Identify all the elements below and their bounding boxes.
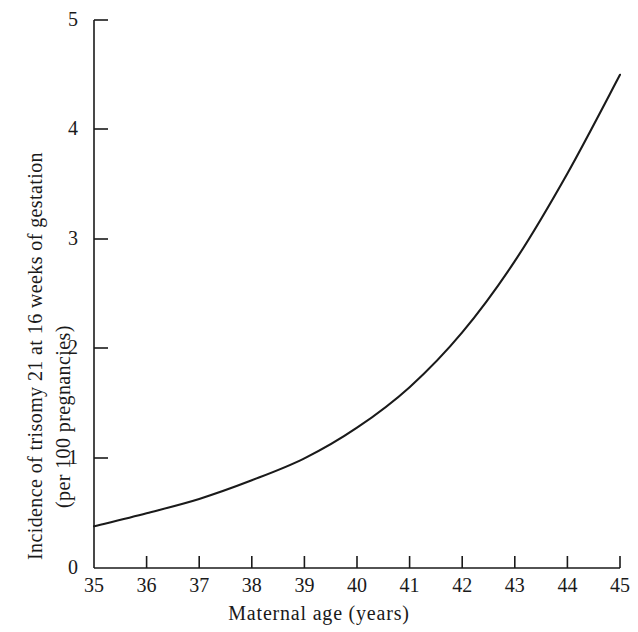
x-tick-label-42: 42 — [442, 574, 482, 597]
x-tick-label-44: 44 — [547, 574, 587, 597]
x-tick-label-36: 36 — [127, 574, 167, 597]
chart-figure: Incidence of trisomy 21 at 16 weeks of g… — [0, 0, 638, 632]
plot-area — [0, 0, 638, 632]
y-tick-label-1: 1 — [52, 446, 78, 469]
x-tick-label-41: 41 — [390, 574, 430, 597]
y-tick-label-3: 3 — [52, 227, 78, 250]
x-tick-label-39: 39 — [284, 574, 324, 597]
x-tick-label-35: 35 — [74, 574, 114, 597]
x-axis-label: Maternal age (years) — [0, 602, 638, 625]
axes — [94, 20, 620, 568]
x-tick-label-45: 45 — [600, 574, 638, 597]
x-tick-label-43: 43 — [495, 574, 535, 597]
incidence-curve — [94, 75, 620, 527]
y-tick-label-4: 4 — [52, 117, 78, 140]
x-tick-label-38: 38 — [232, 574, 272, 597]
x-axis-ticks — [147, 556, 620, 568]
y-tick-label-2: 2 — [52, 336, 78, 359]
x-tick-label-40: 40 — [337, 574, 377, 597]
y-tick-label-5: 5 — [52, 8, 78, 31]
y-axis-ticks — [94, 20, 108, 458]
x-tick-label-37: 37 — [179, 574, 219, 597]
